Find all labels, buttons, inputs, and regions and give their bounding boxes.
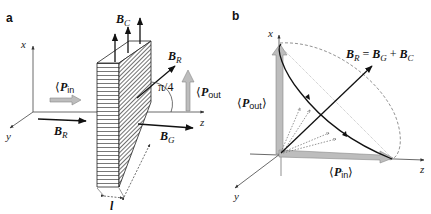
b-c-label: BC — [115, 12, 131, 28]
x-axis-label: x — [20, 38, 26, 50]
panel-a: a x z y BC BR — [5, 11, 221, 213]
b-g-arrow — [138, 124, 193, 128]
panel-a-label: a — [6, 11, 13, 25]
p-out-arrow — [272, 44, 287, 154]
p-in-label: ⟨Pin — [55, 80, 74, 95]
b-r-in-label: BR — [53, 124, 68, 140]
b-r-out-label: BR — [167, 49, 182, 65]
length-label: l — [110, 199, 114, 213]
z-axis-label: z — [419, 163, 425, 175]
p-out-arrow — [182, 70, 194, 111]
intermediate-polarization-arrows — [281, 108, 336, 153]
angle-label: π/4 — [158, 80, 173, 94]
slab-side-face — [119, 41, 151, 187]
panel-b-label: b — [232, 9, 239, 23]
p-out-label: ⟨Pout⟩ — [237, 96, 267, 111]
p-in-arrow — [50, 95, 81, 105]
y-axis-label: y — [5, 130, 11, 142]
p-in-label: ⟨Pin⟩ — [329, 165, 353, 180]
b-r-in-arrow — [38, 119, 86, 121]
slab-front-face — [97, 63, 119, 187]
y-axis — [10, 112, 33, 128]
p-out-label: ⟨Pout — [196, 85, 221, 100]
y-axis — [235, 154, 280, 188]
figure-canvas: a x z y BC BR — [0, 0, 431, 214]
dotted-chord — [282, 48, 392, 158]
panel-b: b x z y — [232, 9, 425, 202]
z-axis-label: z — [199, 116, 205, 128]
y-axis-label: y — [233, 190, 239, 202]
b-r-equation: BR = BG + BC — [345, 47, 415, 63]
polarizer-slab — [97, 41, 151, 187]
b-r-arrow — [281, 66, 372, 153]
x-axis-label: x — [267, 27, 273, 39]
b-g-label: BG — [159, 129, 175, 145]
